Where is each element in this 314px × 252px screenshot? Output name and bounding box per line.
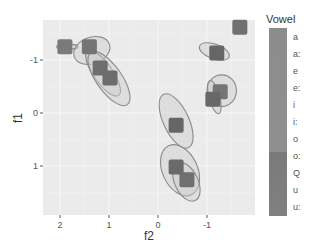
legend-title: Vowel xyxy=(266,13,295,25)
legend-entry: a xyxy=(293,32,298,42)
x-tick-label: 0 xyxy=(155,220,160,230)
legend-entry: i xyxy=(293,100,295,110)
legend-entry: a: xyxy=(293,49,301,59)
legend-entry: Q xyxy=(293,168,300,178)
legend-entry: i: xyxy=(293,117,298,127)
legend-colorbar xyxy=(269,28,287,216)
y-tick-label: -1 xyxy=(30,55,38,65)
point-u-long xyxy=(179,172,194,187)
y-axis: -101 xyxy=(30,55,43,171)
y-tick-label: 1 xyxy=(33,161,38,171)
point-u xyxy=(209,46,224,61)
y-axis-title: f1 xyxy=(11,113,25,123)
vowel-scatter-chart: 210-1 -101 f2 f1 Vowel aa:ee:ii:oo:Quu: xyxy=(0,0,314,252)
x-axis: 210-1 xyxy=(57,215,211,230)
legend-entry: e xyxy=(293,66,298,76)
point-Q xyxy=(169,118,184,133)
legend: Vowel aa:ee:ii:oo:Quu: xyxy=(266,13,301,216)
x-tick-label: 1 xyxy=(106,220,111,230)
legend-entry: e: xyxy=(293,83,301,93)
point-o xyxy=(232,20,247,35)
legend-labels: aa:ee:ii:oo:Quu: xyxy=(293,32,301,212)
x-tick-label: -1 xyxy=(203,220,211,230)
point-a xyxy=(205,92,220,107)
legend-entry: u: xyxy=(293,202,301,212)
y-tick-label: 0 xyxy=(33,108,38,118)
legend-entry: o: xyxy=(293,151,301,161)
x-axis-title: f2 xyxy=(144,229,154,243)
legend-entry: u xyxy=(293,185,298,195)
legend-entry: o xyxy=(293,134,298,144)
x-tick-label: 2 xyxy=(57,220,62,230)
point-i-long xyxy=(102,71,117,86)
point-e xyxy=(57,39,72,54)
point-i xyxy=(82,39,97,54)
